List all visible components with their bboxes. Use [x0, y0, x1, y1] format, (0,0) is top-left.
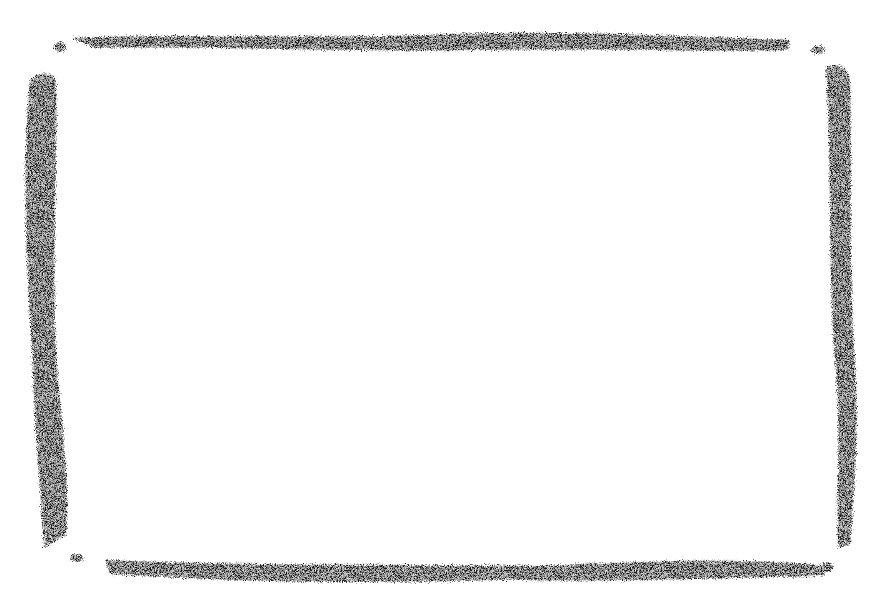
crayon-frame-canvas — [0, 0, 884, 604]
corner-speck-bottom-right — [821, 562, 833, 572]
frame-bottom-edge — [105, 560, 825, 582]
frame-left-edge — [26, 73, 68, 548]
frame-right-edge — [826, 65, 857, 548]
frame-top-edge — [72, 33, 790, 51]
frame-interior — [70, 60, 810, 550]
corner-speck-top-right — [811, 46, 825, 54]
corner-speck-top-left — [54, 42, 66, 52]
corner-speck-bottom-left — [70, 554, 84, 562]
